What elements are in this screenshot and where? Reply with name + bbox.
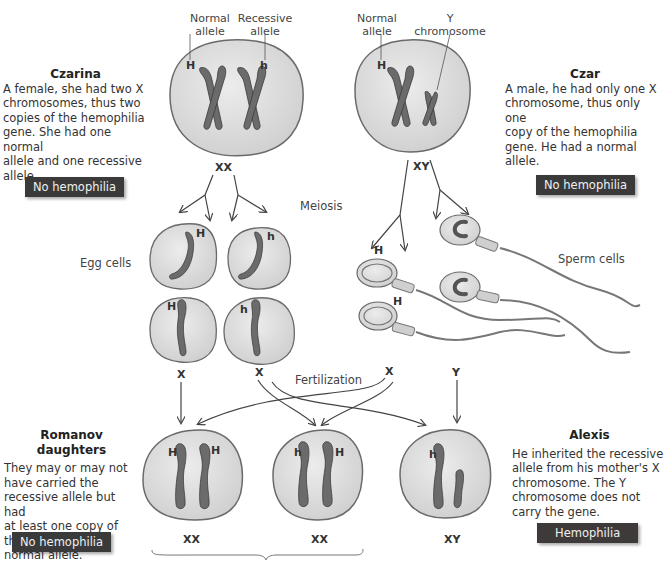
allele-H: H	[186, 59, 195, 72]
daughters-brace	[152, 549, 363, 560]
daughter2-allele: H	[335, 446, 344, 459]
czarina-info: Czarina A female, she had two X chromoso…	[3, 67, 148, 183]
czar-title: Czar	[505, 67, 665, 82]
gamete-x3: X	[385, 365, 393, 378]
daughter1-allele: H	[168, 446, 177, 459]
egg-allele: H	[167, 300, 176, 313]
czarina-title: Czarina	[3, 67, 148, 82]
daughter2-allele: h	[294, 446, 302, 459]
gamete-x1: X	[177, 368, 185, 381]
sperm-allele: H	[393, 295, 402, 308]
czar-genotype: XY	[413, 160, 429, 173]
alexis-title: Alexis	[512, 428, 667, 443]
fertilization-label: Fertilization	[295, 374, 362, 387]
offspring-cells	[143, 430, 491, 520]
czarina-cell	[170, 34, 303, 156]
alexis-status-badge: Hemophilia	[537, 523, 638, 543]
alexis-allele: h	[429, 448, 437, 461]
daughter1-allele: H	[211, 444, 220, 457]
egg-allele: h	[267, 230, 275, 243]
egg-cells-label: Egg cells	[80, 257, 131, 270]
gamete-x2: X	[255, 366, 263, 379]
meiosis-label: Meiosis	[300, 200, 342, 213]
czar-cell	[355, 34, 470, 152]
czarina-normal-allele-label: Normal allele	[180, 12, 240, 38]
sperm-allele: H	[374, 244, 383, 257]
egg-cells	[150, 224, 294, 365]
allele-H: H	[377, 59, 386, 72]
egg-allele: H	[196, 227, 205, 240]
gamete-y: Y	[452, 366, 460, 379]
daughters-status-badge: No hemophilia	[12, 532, 111, 552]
alexis-genotype: XY	[444, 533, 460, 546]
czarina-recessive-allele-label: Recessive allele	[232, 12, 298, 38]
meiosis-arrows-female	[180, 175, 266, 220]
egg-allele: h	[240, 303, 248, 316]
daughters-title: Romanov daughters	[4, 428, 139, 457]
allele-h: h	[260, 59, 268, 72]
daughter2-genotype: XX	[311, 533, 328, 546]
czarina-genotype: XX	[215, 161, 232, 174]
czar-info: Czar A male, he had only one X chromosom…	[505, 67, 665, 169]
alexis-info: Alexis He inherited the recessive allele…	[512, 428, 667, 519]
daughter1-genotype: XX	[183, 533, 200, 546]
czar-normal-allele-label: Normal allele	[352, 12, 402, 38]
y-chromosome-label: Y chromosome	[410, 12, 490, 38]
czarina-status-badge: No hemophilia	[25, 177, 124, 197]
sperm-cells	[357, 215, 640, 353]
sperm-cells-label: Sperm cells	[558, 253, 625, 266]
czar-status-badge: No hemophilia	[536, 175, 635, 195]
